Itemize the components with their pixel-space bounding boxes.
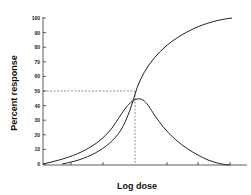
y-tick-label: 20 — [34, 132, 40, 138]
y-tick-label: 90 — [34, 30, 40, 36]
y-tick-label: 10 — [34, 146, 40, 152]
y-tick-label: 30 — [34, 117, 40, 123]
sigmoid-curve — [62, 18, 232, 164]
y-tick-label: 80 — [34, 44, 40, 50]
x-axis-title: Log dose — [117, 181, 157, 191]
dose-response-chart: 0 10 20 30 40 50 60 70 80 90 100 Log dos… — [0, 0, 251, 195]
x-ticks — [71, 162, 230, 165]
y-axis-title: Percent response — [9, 55, 19, 131]
y-tick-label: 0 — [37, 161, 40, 167]
y-tick-label: 100 — [32, 15, 41, 21]
y-tick-label: 40 — [34, 103, 40, 109]
y-tick-label: 60 — [34, 73, 40, 79]
y-tick-label: 70 — [34, 59, 40, 65]
y-tick-label: 50 — [34, 88, 40, 94]
bell-curve — [43, 99, 230, 165]
